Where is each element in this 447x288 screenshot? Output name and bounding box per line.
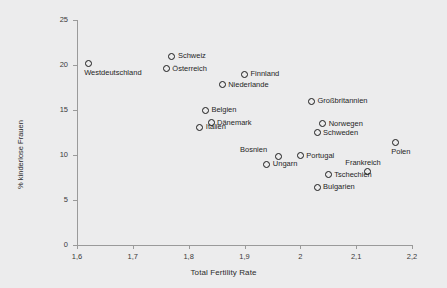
data-point-label: Bosnien <box>240 146 267 154</box>
data-point-marker[interactable] <box>319 120 326 127</box>
data-point-marker[interactable] <box>314 129 321 136</box>
data-point-label: Schweiz <box>178 52 206 60</box>
data-point-marker[interactable] <box>202 107 209 114</box>
data-point-marker[interactable] <box>314 184 321 191</box>
y-tick-mark <box>73 155 77 156</box>
scatter-chart: 0510152025 1,61,71,81,922,12,2 Westdeuts… <box>0 0 447 288</box>
y-axis-line <box>77 20 78 245</box>
data-point-marker[interactable] <box>392 139 399 146</box>
x-tick-label: 1,7 <box>118 253 148 261</box>
data-point-label: Frankreich <box>345 159 380 167</box>
data-point-marker[interactable] <box>219 81 226 88</box>
data-point-label: Schweden <box>323 129 358 137</box>
y-tick-mark <box>73 65 77 66</box>
plot-area: 0510152025 1,61,71,81,922,12,2 Westdeuts… <box>0 0 447 288</box>
data-point-label: Westdeutschland <box>84 69 141 77</box>
y-axis-title: % kinderlose Frauen <box>16 95 25 215</box>
x-tick-mark <box>245 245 246 249</box>
x-tick-label: 1,8 <box>174 253 204 261</box>
data-point-label: Finnland <box>251 70 280 78</box>
data-point-marker[interactable] <box>263 161 270 168</box>
y-tick-label: 20 <box>44 61 68 69</box>
x-tick-mark <box>133 245 134 249</box>
y-tick-label: 25 <box>44 16 68 24</box>
data-point-marker[interactable] <box>85 60 92 67</box>
data-point-label: Niederlande <box>228 81 268 89</box>
data-point-marker[interactable] <box>163 65 170 72</box>
data-point-marker[interactable] <box>196 124 203 131</box>
y-tick-label: 10 <box>44 151 68 159</box>
x-tick-mark <box>356 245 357 249</box>
x-tick-label: 1,9 <box>230 253 260 261</box>
data-point-label: Österreich <box>172 65 207 73</box>
y-tick-mark <box>73 110 77 111</box>
x-tick-mark <box>77 245 78 249</box>
data-point-marker[interactable] <box>325 171 332 178</box>
data-point-marker[interactable] <box>168 53 175 60</box>
x-tick-mark <box>412 245 413 249</box>
data-point-label: Bulgarien <box>323 183 355 191</box>
data-point-label: Ungarn <box>273 160 298 168</box>
x-tick-label: 2,1 <box>341 253 371 261</box>
data-point-marker[interactable] <box>241 71 248 78</box>
x-tick-label: 1,6 <box>62 253 92 261</box>
y-tick-mark <box>73 20 77 21</box>
x-tick-mark <box>189 245 190 249</box>
x-axis-title: Total Fertility Rate <box>0 268 447 277</box>
x-tick-mark <box>300 245 301 249</box>
data-point-label: Norwegen <box>329 120 363 128</box>
data-point-marker[interactable] <box>297 152 304 159</box>
data-point-label: Polen <box>391 148 410 156</box>
x-tick-label: 2,2 <box>397 253 427 261</box>
data-point-label: Tschechien <box>334 171 372 179</box>
data-point-marker[interactable] <box>308 98 315 105</box>
y-tick-label: 5 <box>44 196 68 204</box>
data-point-label: Italien <box>206 123 226 131</box>
y-tick-mark <box>73 200 77 201</box>
data-point-label: Belgien <box>211 106 236 114</box>
data-point-label: Großbritannien <box>318 97 368 105</box>
y-tick-label: 15 <box>44 106 68 114</box>
data-point-label: Portugal <box>306 152 334 160</box>
y-tick-label: 0 <box>44 241 68 249</box>
x-tick-label: 2 <box>285 253 315 261</box>
